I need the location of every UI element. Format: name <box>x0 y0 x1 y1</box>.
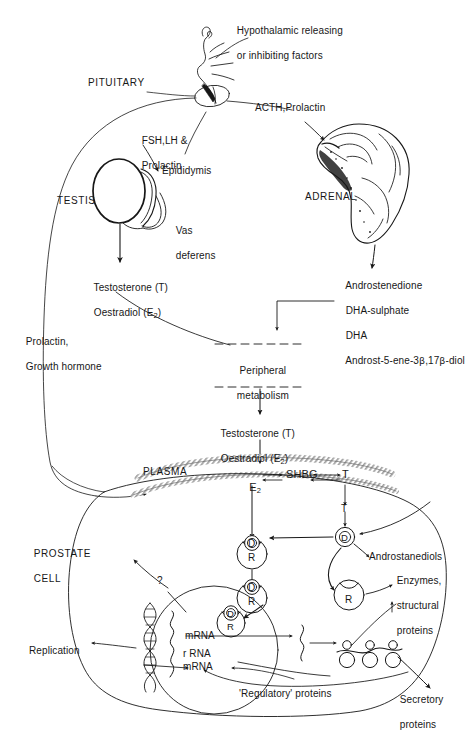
adrenal-steroid-output-label: Androstenedione DHA-sulphate DHA Androst… <box>340 267 465 367</box>
plasma-label: PLASMA <box>143 466 187 479</box>
mrna-lower-label: mRNA <box>183 661 213 674</box>
receptor-2-r-letter: R <box>248 596 255 609</box>
membrane-receptor-d-letter: D <box>341 532 348 545</box>
prostate-cell-membrane <box>69 474 447 717</box>
question-mark-label: ? <box>157 575 163 588</box>
prostate-cell-label: PROSTATE CELL <box>27 535 91 585</box>
membrane-t-label: T <box>341 503 347 516</box>
free-receptor-r-letter: R <box>345 594 352 607</box>
pituitary-label: PITUITARY <box>88 77 145 90</box>
vas-deferens-label: Vas deferens <box>170 212 215 262</box>
plasma-t-label: T <box>342 468 349 481</box>
e2-subscript-3: 2 <box>257 485 261 494</box>
ribosome-chain <box>337 641 402 668</box>
nuclear-receptor-r-letter: R <box>227 621 234 634</box>
adrenal-label: ADRENAL <box>305 191 356 204</box>
epididymis-label: Epididymis <box>162 165 211 178</box>
regulatory-proteins-label: 'Regulatory' proteins <box>239 688 332 701</box>
peripheral-metabolism-label: Peripheral metabolism <box>215 352 305 402</box>
nuclear-receptor-d-letter: D <box>227 608 234 621</box>
replication-label: Replication <box>29 645 80 658</box>
mrna-upper-label: mRNA <box>185 630 215 643</box>
secretory-proteins-label: Secretory proteins <box>394 681 443 731</box>
prolactin-growth-hormone-label: Prolactin, Growth hormone <box>20 323 102 373</box>
enzymes-structural-proteins-label: Enzymes, structural proteins <box>391 562 441 637</box>
receptor-1-r-letter: R <box>248 552 255 565</box>
plasma-shbg-label: SHBG <box>286 468 318 481</box>
plasma-e2-label: E2 <box>243 468 261 497</box>
pituitary-gland-drawing <box>193 27 234 109</box>
receptor-2-d-letter: D <box>248 582 255 595</box>
rna-squiggle-cytoplasm <box>300 625 304 661</box>
hypothalamic-factors-label: Hypothalamic releasing or inhibiting fac… <box>231 12 343 62</box>
peripheral-steroid-output-label: Testosterone (T) Oestradiol (E2) <box>215 415 295 468</box>
testis-label: TESTIS <box>57 195 96 208</box>
receptor-1-d-letter: D <box>248 538 255 551</box>
acth-prolactin-label: ACTH,Prolactin <box>255 102 325 115</box>
adrenal-gland-drawing <box>317 124 409 243</box>
testis-steroid-output-label: Testosterone (T) Oestradiol (E2) <box>88 269 168 322</box>
rrna-label: r RNA <box>183 648 211 661</box>
